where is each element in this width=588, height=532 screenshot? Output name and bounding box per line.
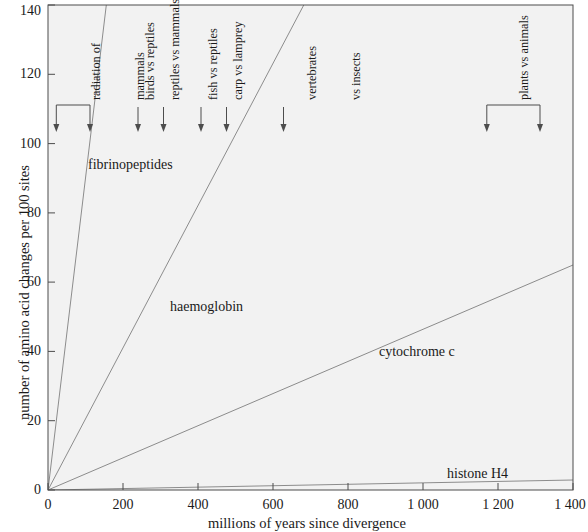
- y-tick-label: 140: [8, 4, 41, 18]
- annotation-line: vs insects: [349, 46, 364, 100]
- x-tick-label: 1 000: [407, 498, 439, 512]
- x-tick-label: 800: [338, 498, 359, 512]
- y-tick-label: 0: [8, 483, 41, 497]
- annotation-label-plants-vs-animals: plants vs animals: [517, 15, 532, 100]
- annotation-label-carp-vs-lamprey: carp vs lamprey: [231, 21, 246, 100]
- series-label-cytochrome-c: cytochrome c: [379, 344, 455, 360]
- x-tick-label: 1 400: [554, 498, 586, 512]
- x-tick-label: 400: [188, 498, 209, 512]
- series-label-histone-h4: histone H4: [447, 466, 508, 482]
- x-tick-label: 600: [263, 498, 284, 512]
- y-tick-label: 100: [8, 137, 41, 151]
- amino-acid-divergence-chart: 0 20 40 60 80 100 120 140 0 200 400 600 …: [0, 0, 588, 532]
- annotation-label-vertebrates-vs-insects: vertebrates vs insects: [276, 46, 392, 100]
- annotation-label-fish-vs-reptiles: fish vs reptiles: [206, 28, 221, 100]
- x-tick-label: 1 200: [482, 498, 514, 512]
- annotation-line: radiation of: [89, 43, 104, 100]
- y-axis-title: number of amino acid changes per 100 sit…: [16, 165, 33, 420]
- series-label-fibrinopeptides: fibrinopeptides: [88, 157, 173, 173]
- annotation-label-reptiles-vs-mammals: reptiles vs mammals: [168, 0, 183, 100]
- y-tick-label: 120: [8, 67, 41, 81]
- series-label-haemoglobin: haemoglobin: [170, 299, 243, 315]
- x-axis-title: millions of years since divergence: [208, 515, 406, 532]
- x-tick-label: 200: [113, 498, 134, 512]
- annotation-line: vertebrates: [305, 46, 320, 100]
- x-tick-label: 0: [45, 498, 52, 512]
- annotation-label-birds-vs-reptiles: birds vs reptiles: [143, 22, 158, 100]
- annotation-label-radiation-of-mammals: radiation of mammals: [60, 43, 176, 100]
